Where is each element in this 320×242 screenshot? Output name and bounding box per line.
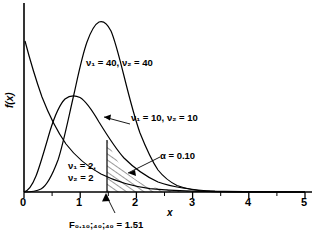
xtick-3: 3 bbox=[189, 196, 195, 208]
xtick-2: 2 bbox=[132, 196, 138, 208]
y-axis-label: f(x) bbox=[4, 92, 15, 108]
xtick-0: 0 bbox=[20, 196, 26, 208]
curve-label-nu2-line2: ν₂ = 2 bbox=[68, 172, 94, 183]
curve-label-nu40: ν₁ = 40, ν₂ = 40 bbox=[86, 57, 153, 68]
xtick-5: 5 bbox=[301, 196, 307, 208]
leader-nu10 bbox=[104, 115, 130, 125]
curve-nu40 bbox=[24, 22, 305, 192]
xtick-1: 1 bbox=[76, 196, 82, 208]
xtick-4: 4 bbox=[245, 196, 251, 208]
curve-label-nu10: ν₁ = 10, ν₂ = 10 bbox=[131, 112, 198, 123]
x-axis-label: x bbox=[167, 207, 173, 218]
curve-label-nu2-line1: ν₁ = 2, bbox=[68, 160, 96, 171]
alpha-label: α = 0.10 bbox=[160, 150, 195, 161]
alpha-shaded-region bbox=[105, 130, 315, 194]
critical-value-label: F₀.₁₀;₄₀;₄₀ = 1.51 bbox=[69, 219, 143, 230]
f-distribution-figure: 0 1 2 3 4 5 x f(x) ν₁ = 40, ν₂ = 40 ν₁ =… bbox=[0, 0, 320, 242]
